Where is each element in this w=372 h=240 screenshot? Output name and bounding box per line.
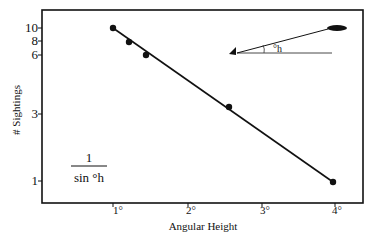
formula-numerator: 1 [86,150,93,165]
data-point [110,25,116,31]
eye-icon [229,47,236,55]
y-axis-ticks: 10 8 6 3 1 [25,20,42,188]
data-point [226,104,232,110]
data-point [126,39,132,45]
object-icon [327,25,347,31]
formula-denominator: sin °h [74,170,105,185]
y-tick-1: 1 [32,173,39,188]
x-tick-2: 2° [186,204,196,216]
formula-annotation: 1 sin °h [71,150,107,185]
data-point [330,179,336,185]
chart: 10 8 6 3 1 # Sightings 1° 2° 3° 4° Angul… [0,0,372,240]
x-axis-label: Angular Height [169,220,238,232]
y-tick-8: 8 [32,33,39,48]
y-tick-6: 6 [32,47,39,62]
y-axis-label: # Sightings [10,85,22,135]
inset-angle-diagram: °h [229,25,347,55]
sight-line [237,29,328,53]
x-tick-4: 4° [332,204,342,216]
x-tick-3: 3° [260,204,270,216]
y-tick-3: 3 [32,106,39,121]
data-point [143,52,149,58]
x-axis-ticks: 1° 2° 3° 4° [113,203,342,216]
angle-label: °h [273,43,282,54]
x-tick-1: 1° [113,204,123,216]
fit-line [113,28,333,182]
